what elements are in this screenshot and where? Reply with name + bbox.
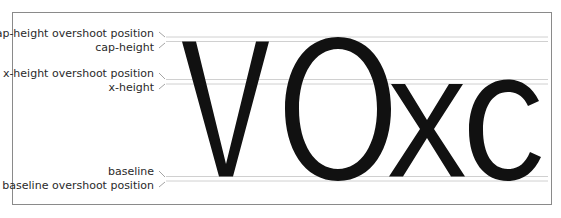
tick-cap-height	[159, 43, 165, 48]
leader-ticks	[159, 32, 165, 187]
tick-cap-overshoot	[159, 32, 165, 37]
tick-baseline	[159, 171, 165, 177]
glyph-V	[182, 42, 269, 177]
specimen-glyphs	[182, 37, 541, 181]
tick-baseline-overshoot	[159, 182, 165, 187]
glyph-x	[389, 84, 465, 177]
glyph-O	[285, 37, 391, 181]
tick-x-height	[159, 84, 165, 89]
tick-x-overshoot	[159, 73, 165, 79]
glyph-c	[469, 80, 541, 182]
specimen-art	[0, 0, 561, 218]
